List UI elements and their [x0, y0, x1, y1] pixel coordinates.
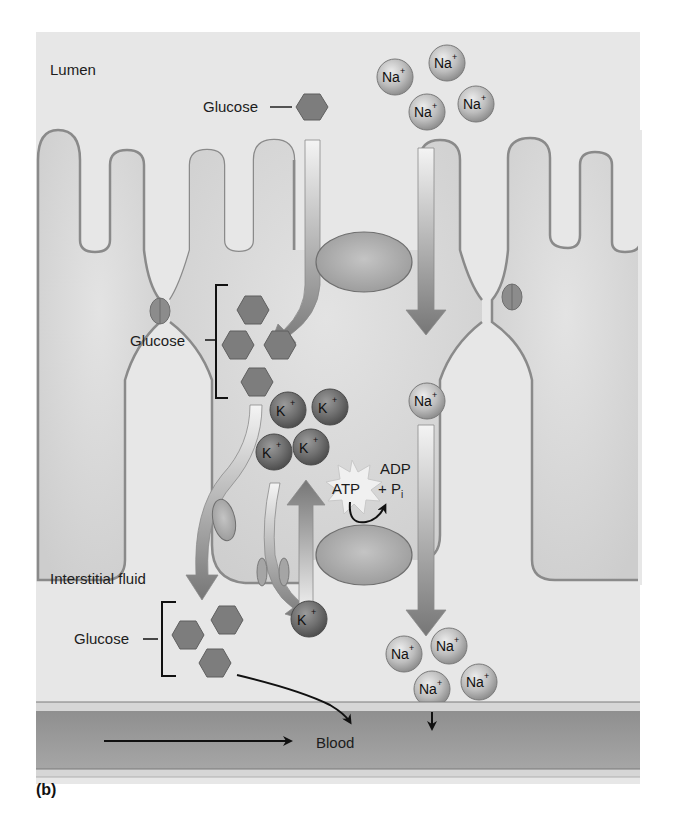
k-ion-cell-3: K+	[256, 434, 292, 470]
blood-label: Blood	[316, 734, 354, 751]
svg-text:Na: Na	[466, 674, 484, 690]
adp-label: ADP	[380, 460, 411, 477]
epithelial-transport-diagram: Lumen Glucose Na+ Na+ Na+ Na+ Glucose Na…	[0, 0, 675, 820]
glucose-cell-label: Glucose	[130, 332, 185, 349]
svg-text:K: K	[276, 403, 286, 419]
svg-text:Na: Na	[391, 646, 409, 662]
svg-text:Na: Na	[436, 638, 454, 654]
na-ion-lumen-4: Na+	[458, 86, 494, 122]
glucose-lumen-label: Glucose	[203, 98, 258, 115]
atp-label: ATP	[332, 480, 360, 497]
panel-label: (b)	[36, 781, 56, 799]
svg-text:+: +	[454, 635, 459, 645]
na-ion-interstitial-4: Na+	[461, 664, 497, 700]
svg-text:+: +	[432, 390, 437, 400]
svg-text:+: +	[481, 93, 486, 103]
glucose-interstitial-label: Glucose	[74, 630, 129, 647]
svg-text:Na: Na	[434, 55, 452, 71]
svg-text:Na: Na	[414, 393, 432, 409]
na-ion-cell: Na+	[409, 383, 445, 419]
svg-text:Na: Na	[414, 104, 432, 120]
svg-text:+: +	[437, 678, 442, 688]
na-glucose-cotransporter	[316, 232, 412, 292]
na-k-atpase-pump	[316, 525, 412, 585]
svg-text:+: +	[290, 398, 295, 408]
svg-text:+: +	[313, 435, 318, 445]
k-ion-cell-1: K+	[270, 392, 306, 428]
tight-junction-left	[150, 298, 170, 324]
svg-text:K: K	[297, 612, 307, 628]
svg-text:+: +	[400, 66, 405, 76]
svg-text:K: K	[299, 440, 309, 456]
svg-text:+: +	[311, 607, 316, 617]
na-ion-interstitial-1: Na+	[386, 636, 422, 672]
k-ion-cell-4: K+	[293, 429, 329, 465]
svg-text:+: +	[452, 52, 457, 62]
svg-text:Na: Na	[419, 681, 437, 697]
tight-junction-right	[502, 284, 522, 310]
na-ion-lumen-2: Na+	[429, 45, 465, 81]
k-ion-cell-2: K+	[312, 389, 348, 425]
na-ion-interstitial-2: Na+	[431, 628, 467, 664]
na-ion-lumen-3: Na+	[409, 94, 445, 130]
svg-text:+: +	[484, 671, 489, 681]
interstitial-fluid-label: Interstitial fluid	[50, 570, 146, 587]
na-ion-lumen-1: Na+	[377, 59, 413, 95]
svg-text:Na: Na	[382, 69, 400, 85]
svg-text:+: +	[409, 643, 414, 653]
k-ion-interstitial: K+	[291, 601, 327, 637]
right-edge-mask	[638, 130, 642, 585]
svg-text:+: +	[432, 101, 437, 111]
svg-text:K: K	[318, 400, 328, 416]
svg-text:Na: Na	[463, 96, 481, 112]
lumen-label: Lumen	[50, 61, 96, 78]
svg-text:+: +	[276, 440, 281, 450]
svg-text:K: K	[262, 445, 272, 461]
svg-text:+: +	[332, 395, 337, 405]
